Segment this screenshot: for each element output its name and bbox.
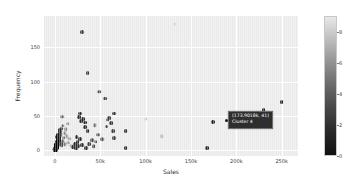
data-point-tooltip: (173.9018k, 41) Cluster 4 <box>228 111 273 129</box>
scatter-point[interactable] <box>105 125 109 129</box>
y-tick-label: 50 <box>24 113 40 119</box>
x-tick-label: 200k <box>230 158 242 164</box>
x-tick-label: 250k <box>275 158 287 164</box>
scatter-point[interactable] <box>93 124 96 127</box>
gridline-vertical <box>100 16 101 156</box>
y-tick-label: 0 <box>24 147 40 153</box>
scatter-point[interactable] <box>94 140 97 143</box>
scatter-point[interactable] <box>64 128 67 131</box>
gridline-horizontal <box>44 47 298 48</box>
scatter-point[interactable] <box>124 129 128 133</box>
scatter-point[interactable] <box>109 121 113 125</box>
scatter-point[interactable] <box>111 130 115 134</box>
scatter-point[interactable] <box>68 137 71 140</box>
colorbar-tick-label: 6 <box>339 60 342 66</box>
colorbar-tick-mark <box>337 94 339 95</box>
scatter-point[interactable] <box>83 121 87 125</box>
scatter-point[interactable] <box>205 146 209 150</box>
scatter-point[interactable] <box>86 71 90 75</box>
scatter-point[interactable] <box>66 122 69 125</box>
scatter-point[interactable] <box>211 120 215 124</box>
scatter-point[interactable] <box>160 134 163 137</box>
scatter-point[interactable] <box>100 137 104 141</box>
scatter-point[interactable] <box>144 118 147 121</box>
gridline-horizontal <box>44 150 298 151</box>
plot-texture-overlay <box>44 16 298 156</box>
colorbar-tick-mark <box>337 63 339 64</box>
y-axis-label: Frequency <box>14 71 21 102</box>
colorbar-tick-label: 4 <box>339 91 342 97</box>
scatter-point[interactable] <box>87 142 91 146</box>
gridline-vertical <box>191 16 192 156</box>
gridline-vertical <box>236 16 237 156</box>
scatter-point[interactable] <box>112 112 116 116</box>
scatter-point[interactable] <box>79 119 83 123</box>
scatter-point[interactable] <box>103 97 107 101</box>
scatter-point[interactable] <box>97 133 101 137</box>
colorbar-tick-mark <box>337 156 339 157</box>
scatter-point[interactable] <box>58 128 62 132</box>
scatter-point[interactable] <box>173 22 176 25</box>
scatter-point[interactable] <box>98 90 102 94</box>
colorbar-tick-mark <box>337 32 339 33</box>
scatter-point[interactable] <box>84 146 88 150</box>
colorbar[interactable]: 02468 <box>324 16 337 156</box>
scatter-point[interactable] <box>60 115 63 118</box>
scatter-point[interactable] <box>124 147 128 151</box>
scatter-point[interactable] <box>280 100 284 104</box>
scatter-point[interactable] <box>92 145 96 149</box>
scatter-point[interactable] <box>74 147 78 151</box>
x-tick-label: 50k <box>96 158 105 164</box>
gridline-vertical <box>282 16 283 156</box>
scatter-point[interactable] <box>80 30 84 34</box>
y-tick-label: 100 <box>24 79 40 85</box>
scatter-point[interactable] <box>112 136 116 140</box>
x-axis-label: Sales <box>44 168 298 175</box>
y-tick-label: 150 <box>24 44 40 50</box>
scatter-plot-figure: 050k100k150k200k250k 050100150 Sales Fre… <box>0 0 361 185</box>
colorbar-tick-label: 8 <box>339 29 342 35</box>
scatter-point[interactable] <box>62 136 66 140</box>
tooltip-cluster-label: Cluster 4 <box>232 119 269 125</box>
x-tick-label: 100k <box>139 158 151 164</box>
x-tick-label: 150k <box>185 158 197 164</box>
colorbar-tick-mark <box>337 125 339 126</box>
colorbar-gradient <box>324 16 337 156</box>
scatter-point[interactable] <box>86 130 90 134</box>
gridline-horizontal <box>44 82 298 83</box>
plot-canvas[interactable] <box>44 16 298 156</box>
colorbar-tick-label: 0 <box>339 153 342 159</box>
colorbar-tick-label: 2 <box>339 122 342 128</box>
gridline-vertical <box>146 16 147 156</box>
scatter-point[interactable] <box>63 143 66 146</box>
x-tick-label: 0 <box>53 158 56 164</box>
